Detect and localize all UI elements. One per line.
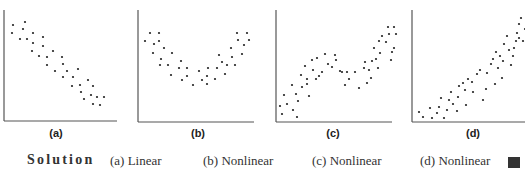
data-point (381, 35, 383, 37)
data-point (149, 32, 151, 34)
data-point (497, 67, 499, 69)
data-point (226, 64, 228, 66)
data-point (214, 78, 216, 80)
data-point (348, 78, 350, 80)
data-point (318, 75, 320, 77)
data-point (472, 91, 474, 93)
data-point (327, 63, 329, 65)
data-point (201, 79, 203, 81)
panel-label-c: (c) (313, 127, 353, 139)
data-point (234, 64, 236, 66)
data-point (450, 91, 452, 93)
data-point (503, 43, 505, 45)
data-point (518, 37, 520, 39)
data-point (243, 44, 245, 46)
data-point (248, 39, 250, 41)
data-point (378, 40, 380, 42)
data-point (334, 54, 336, 56)
data-point (446, 109, 448, 111)
data-point (283, 94, 285, 96)
data-point (354, 71, 356, 73)
data-point (52, 50, 54, 52)
data-point (479, 69, 481, 71)
data-point (186, 75, 188, 77)
data-point (467, 78, 469, 80)
data-point (153, 43, 155, 45)
scatter-panel-b: (b) (125, 0, 260, 140)
scatter-panel-a: (a) (0, 0, 130, 140)
data-point (92, 85, 94, 87)
data-point (371, 60, 373, 62)
data-point (279, 105, 281, 107)
data-point (32, 32, 34, 34)
data-point (346, 71, 348, 73)
answer-b: (b) Nonlinear (203, 153, 273, 169)
data-point (300, 74, 302, 76)
data-point (418, 111, 420, 113)
scatter-plot-b (125, 0, 260, 140)
data-point (422, 116, 424, 118)
data-point (66, 70, 68, 72)
data-point (186, 67, 188, 69)
data-points (279, 26, 397, 118)
data-point (32, 42, 34, 44)
panel-label-a: (a) (36, 127, 76, 139)
data-point (206, 75, 208, 77)
data-point (431, 117, 433, 119)
data-point (286, 103, 288, 105)
data-point (465, 104, 467, 106)
answer-a: (a) Linear (110, 153, 162, 169)
data-point (180, 60, 182, 62)
data-points (418, 17, 525, 119)
data-point (236, 32, 238, 34)
data-point (77, 68, 79, 70)
data-point (457, 96, 459, 98)
data-point (62, 76, 64, 78)
data-point (221, 61, 223, 63)
data-point (508, 49, 510, 51)
data-point (373, 47, 375, 49)
data-point (291, 84, 293, 86)
data-point (501, 77, 503, 79)
data-point (379, 52, 381, 54)
data-point (90, 94, 92, 96)
data-point (364, 61, 366, 63)
panel-label-b: (b) (178, 127, 218, 139)
data-point (335, 59, 337, 61)
data-point (54, 70, 56, 72)
data-point (152, 52, 154, 54)
data-point (246, 32, 248, 34)
data-point (366, 82, 368, 84)
data-point (464, 89, 466, 91)
data-point (144, 40, 146, 42)
data-point (482, 99, 484, 101)
data-point (230, 47, 232, 49)
data-point (80, 91, 82, 93)
data-point (26, 38, 28, 40)
data-point (492, 58, 494, 60)
data-point (216, 67, 218, 69)
data-point (486, 72, 488, 74)
data-point (499, 55, 501, 57)
data-point (306, 83, 308, 85)
data-point (502, 60, 504, 62)
data-point (83, 98, 85, 100)
data-point (71, 85, 73, 87)
data-point (281, 113, 283, 115)
scatter-plot-a (0, 0, 130, 140)
data-point (448, 99, 450, 101)
data-point (296, 116, 298, 118)
data-point (462, 82, 464, 84)
data-point (292, 109, 294, 111)
data-point (297, 100, 299, 102)
data-point (306, 78, 308, 80)
data-point (510, 64, 512, 66)
data-point (301, 86, 303, 88)
data-point (167, 64, 169, 66)
data-point (458, 85, 460, 87)
data-point (312, 69, 314, 71)
data-point (181, 79, 183, 81)
data-point (518, 23, 520, 25)
data-point (38, 55, 40, 57)
data-point (231, 56, 233, 58)
